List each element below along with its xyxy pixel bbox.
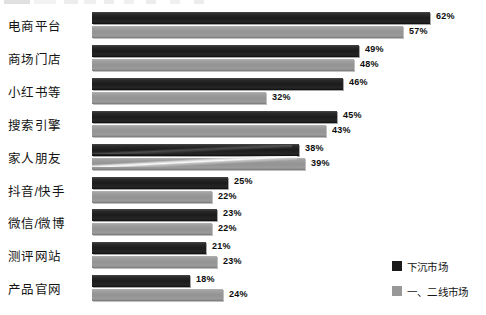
bar-xiachen (92, 275, 190, 287)
legend-item[interactable]: 下沉市场 (392, 259, 486, 273)
bar-value-label: 62% (436, 11, 455, 21)
bar-value-label: 57% (409, 26, 428, 36)
bar-xiachen (92, 144, 299, 156)
bar-xiachen (92, 45, 359, 57)
bar-value-label: 21% (212, 241, 231, 251)
bar-track: 23%22% (92, 208, 486, 241)
category-label: 微信/微博 (8, 215, 86, 234)
bar-xiachen (92, 242, 206, 254)
bar-yierxian (92, 256, 217, 268)
chart-legend: 下沉市场一、二线市场 (392, 259, 486, 309)
bar-group: 家人朋友38%39% (0, 143, 486, 176)
bar-chart: 电商平台62%57%商场门店49%48%小红书等46%32%搜索引擎45%43%… (0, 0, 486, 315)
bar-track: 62%57% (92, 11, 486, 44)
legend-label: 下沉市场 (407, 259, 448, 274)
bar-value-label: 18% (196, 274, 215, 284)
bar-value-label: 38% (305, 143, 324, 153)
category-label: 商场门店 (8, 51, 86, 70)
bar-track: 49%48% (92, 44, 486, 77)
bar-value-label: 23% (223, 208, 242, 218)
bar-xiachen (92, 209, 217, 221)
bar-track: 25%22% (92, 176, 486, 209)
bar-yierxian (92, 158, 305, 170)
bar-track: 46%32% (92, 77, 486, 110)
bar-group: 电商平台62%57% (0, 11, 486, 44)
category-label: 产品官网 (8, 281, 86, 300)
bar-value-label: 48% (360, 59, 379, 69)
legend-swatch-icon (392, 261, 402, 271)
bar-xiachen (92, 78, 343, 90)
bar-value-label: 22% (218, 223, 237, 233)
bar-xiachen (92, 177, 228, 189)
bar-value-label: 24% (229, 289, 248, 299)
bar-group: 微信/微博23%22% (0, 208, 486, 241)
bar-yierxian (92, 191, 212, 203)
bar-group: 小红书等46%32% (0, 77, 486, 110)
bar-yierxian (92, 289, 223, 301)
bar-value-label: 32% (272, 92, 291, 102)
bar-track: 38%39% (92, 143, 486, 176)
category-label: 搜索引擎 (8, 117, 86, 136)
bar-value-label: 22% (218, 191, 237, 201)
bar-track: 45%43% (92, 110, 486, 143)
category-label: 小红书等 (8, 84, 86, 103)
bar-yierxian (92, 125, 326, 137)
legend-swatch-icon (392, 286, 402, 296)
bar-value-label: 43% (332, 125, 351, 135)
bar-value-label: 23% (223, 256, 242, 266)
bar-value-label: 49% (365, 44, 384, 54)
category-label: 家人朋友 (8, 150, 86, 169)
category-label: 测评网站 (8, 248, 86, 267)
legend-item[interactable]: 一、二线市场 (392, 284, 486, 298)
bar-yierxian (92, 223, 212, 235)
legend-label: 一、二线市场 (407, 284, 468, 299)
bar-yierxian (92, 59, 354, 71)
bar-yierxian (92, 26, 403, 38)
bar-yierxian (92, 92, 266, 104)
scan-artifact-top (4, 0, 234, 4)
bar-value-label: 25% (234, 176, 253, 186)
bar-value-label: 39% (311, 158, 330, 168)
bar-xiachen (92, 111, 337, 123)
bar-group: 搜索引擎45%43% (0, 110, 486, 143)
category-label: 电商平台 (8, 18, 86, 37)
bar-group: 商场门店49%48% (0, 44, 486, 77)
bar-group: 抖音/快手25%22% (0, 176, 486, 209)
bar-value-label: 46% (349, 77, 368, 87)
bar-value-label: 45% (343, 110, 362, 120)
bar-xiachen (92, 12, 430, 24)
category-label: 抖音/快手 (8, 183, 86, 202)
